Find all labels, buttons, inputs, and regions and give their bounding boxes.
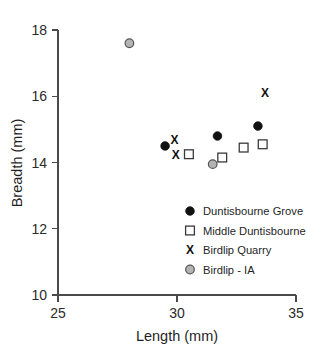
data-point-0-2 — [254, 122, 263, 131]
plot-canvas: 10 12 14 16 18 25 30 35 Length (mm) Brea… — [0, 0, 322, 356]
legend-label: Duntisbourne Grove — [203, 205, 303, 217]
data-point-1-0 — [185, 150, 194, 159]
series-middle-duntisbourne — [185, 140, 268, 162]
data-point-1-2 — [239, 143, 248, 152]
y-tick-label-18: 18 — [31, 22, 47, 38]
x-axis-title: Length (mm) — [136, 328, 218, 344]
data-point-2-1: X — [172, 148, 180, 162]
data-point-0-1 — [213, 132, 222, 141]
legend-item-middle-duntisbourne[interactable]: Middle Duntisbourne — [186, 225, 306, 237]
data-point-3-0 — [125, 39, 134, 48]
x-tick-label-30: 30 — [169, 305, 185, 321]
legend-marker-filled-circle-icon — [186, 207, 195, 216]
data-point-2-2: X — [261, 86, 269, 100]
legend-marker-open-square-icon — [186, 226, 195, 235]
legend-marker-x-icon: X — [186, 243, 194, 257]
data-point-0-0 — [161, 142, 170, 151]
legend-label: Birdlip - IA — [203, 264, 255, 276]
legend-item-duntisbourne-grove[interactable]: Duntisbourne Grove — [186, 205, 303, 217]
legend-marker-grey-circle-icon — [186, 265, 195, 274]
chart-legend: Duntisbourne GroveMiddle DuntisbourneXBi… — [186, 205, 306, 276]
y-tick-label-10: 10 — [31, 287, 47, 303]
y-axis-title: Breadth (mm) — [9, 119, 25, 208]
data-point-3-1 — [208, 160, 217, 169]
legend-item-birdlip-quarry[interactable]: XBirdlip Quarry — [186, 243, 272, 257]
data-point-2-0: X — [171, 133, 179, 147]
y-tick-label-16: 16 — [31, 88, 47, 104]
data-series-layer: XXX — [125, 39, 269, 169]
y-axis-ticks — [52, 30, 58, 295]
legend-label: Birdlip Quarry — [203, 244, 272, 256]
y-tick-label-12: 12 — [31, 221, 47, 237]
data-point-1-3 — [258, 140, 267, 149]
x-tick-label-35: 35 — [288, 305, 304, 321]
scatter-plot-figure: 10 12 14 16 18 25 30 35 Length (mm) Brea… — [0, 0, 322, 356]
legend-label: Middle Duntisbourne — [203, 225, 306, 237]
x-tick-label-25: 25 — [50, 305, 66, 321]
y-tick-label-14: 14 — [31, 155, 47, 171]
data-point-1-1 — [218, 153, 227, 162]
legend-item-birdlip-ia[interactable]: Birdlip - IA — [186, 264, 255, 276]
x-axis-ticks — [58, 295, 296, 302]
